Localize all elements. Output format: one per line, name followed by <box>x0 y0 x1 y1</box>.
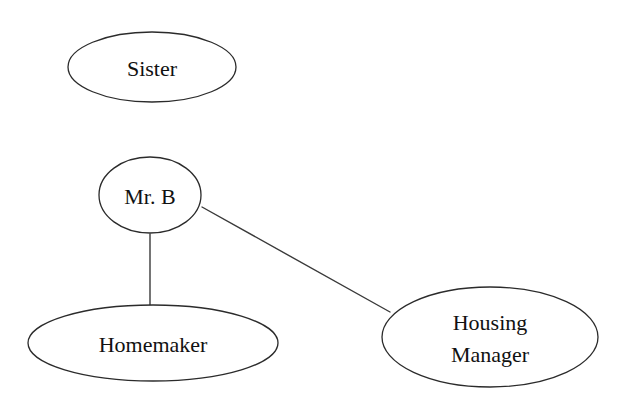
sister-label: Sister <box>127 56 178 81</box>
edge-group <box>150 207 390 312</box>
mr-b-label: Mr. B <box>124 184 175 209</box>
housing-manager-label-line-1: Housing <box>453 310 528 335</box>
housing-manager-ellipse-shape[interactable] <box>382 287 598 387</box>
housing-manager-label-line-2: Manager <box>451 342 530 367</box>
edge-mr-b-to-housing-manager <box>202 207 390 312</box>
node-sister[interactable]: Sister <box>68 32 236 102</box>
ecomap-diagram: Sister Mr. B Homemaker Housing Manager <box>0 0 627 407</box>
node-housing-manager[interactable]: Housing Manager <box>382 287 598 387</box>
node-mr-b[interactable]: Mr. B <box>99 157 201 233</box>
node-homemaker[interactable]: Homemaker <box>28 305 278 381</box>
homemaker-label: Homemaker <box>99 332 208 357</box>
